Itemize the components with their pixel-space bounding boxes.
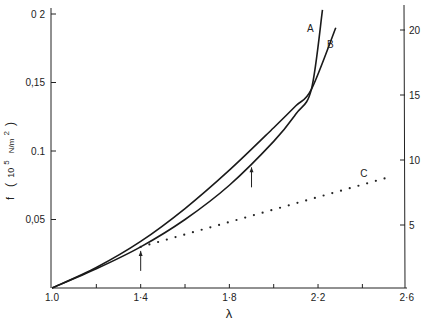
y-right-tick-label: 5 [409,220,415,231]
y-axis-unit-unit-exp: 2 [2,130,11,135]
curve-c-dot [270,209,272,211]
y-axis-unit-exp: 5 [2,160,11,165]
series [52,10,386,288]
y-right-tick-label: 20 [409,25,421,36]
curve-c-dot [349,187,351,189]
curve-c-dot [262,212,264,214]
x-ticks: 1.01·41·82·22·6 [45,284,414,303]
y-right-tick-label: 10 [409,155,421,166]
curve-c-dot [375,180,377,182]
curve-c-dot [357,185,359,187]
curve-c-dot [209,226,211,228]
y-left-tick-label: 0.1 [31,146,45,157]
curve-c-dot [227,221,229,223]
right-y-axis [404,5,405,288]
y-axis-unit: N/m [7,138,16,153]
curve-c-dot [218,224,220,226]
x-tick-label: 2·6 [399,292,414,303]
y-left-tick-label: 0,15 [26,77,46,88]
y-left-tick-label: 0 2 [31,9,45,20]
curve-label-c: C [360,168,367,179]
curve-c-dot [201,229,203,231]
chart: 1.01·41·82·22·6 0,050.10,150 2 5101520 A… [0,0,425,326]
curve-c-dot [340,190,342,192]
curve-c-dot [296,202,298,204]
x-tick-label: 2·2 [311,292,326,303]
x-tick-label: 1·8 [222,292,237,303]
curve-c-dot [253,214,255,216]
curve-c-dot [314,197,316,199]
y-axis-title: f ( 10 5 N/m 2 ) [0,122,17,200]
svg-text:f ( 10 5: f ( 10 5 N/m 2 ) [0,122,17,200]
curve-c-dot [244,216,246,218]
curve-labels: ABC [307,23,367,179]
arrow-head-icon [250,167,254,172]
x-tick-label: 1.0 [45,292,59,303]
curve-c-dot [140,246,142,248]
curve-c-dot [322,194,324,196]
curve-c-dot [331,192,333,194]
curve-c-dot [288,204,290,206]
curve-c-dot [279,207,281,209]
y-axis-unit-base: 10 [6,168,16,178]
curve-b [52,28,336,288]
y-left-tick-label: 0,05 [26,214,46,225]
arrow-head-icon [139,251,143,256]
y-axis-symbol: f [4,196,16,200]
curve-c-dot [148,243,150,245]
curve-a [52,10,322,288]
curve-c-dot [235,219,237,221]
curve-label-a: A [307,23,314,34]
curve-c-dot [366,182,368,184]
curve-c-dot [383,177,385,179]
curve-c-dot [174,236,176,238]
curve-c-dot [157,241,159,243]
curve-c-dot [183,234,185,236]
y-right-tick-label: 15 [409,90,421,101]
curve-c-dot [192,231,194,233]
curve-label-b: B [327,39,334,50]
axes [51,5,407,288]
y-right-ticks: 5101520 [400,25,421,231]
curve-c-dot [305,199,307,201]
curve-c-dot [166,238,168,240]
x-axis-title: λ [226,306,233,321]
x-tick-label: 1·4 [133,292,148,303]
